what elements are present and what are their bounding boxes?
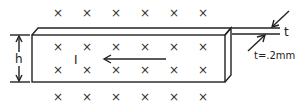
field-cross-icon: ×	[198, 40, 208, 54]
field-cross-icon: ×	[53, 40, 63, 54]
field-cross-icon: ×	[82, 90, 92, 104]
field-cross-icon: ×	[169, 40, 179, 54]
field-cross-icon: ×	[53, 6, 63, 20]
field-cross-icon: ×	[82, 63, 92, 77]
field-cross-icon: ×	[169, 63, 179, 77]
field-cross-icon: ×	[169, 90, 179, 104]
conductor-slab-side	[225, 28, 231, 82]
field-cross-icon: ×	[198, 90, 208, 104]
height-label: h	[15, 52, 23, 66]
field-cross-icon: ×	[82, 40, 92, 54]
field-cross-icon: ×	[111, 6, 121, 20]
field-cross-icon: ×	[140, 63, 150, 77]
field-cross-icon: ×	[111, 63, 121, 77]
field-cross-icon: ×	[198, 6, 208, 20]
t-arrow-top-shaft	[273, 11, 289, 26]
conductor-slab-top	[32, 28, 231, 35]
thickness-value-label: t=.2mm	[254, 50, 295, 61]
current-label: I	[74, 53, 78, 67]
conductor-diagram: ×××××××××××××××××××××××× h I t t=.2mm	[0, 0, 306, 108]
field-cross-icon: ×	[198, 63, 208, 77]
field-cross-icon: ×	[169, 6, 179, 20]
field-cross-icon: ×	[53, 63, 63, 77]
field-cross-icon: ×	[82, 6, 92, 20]
field-cross-icon: ×	[140, 40, 150, 54]
field-cross-icon: ×	[111, 40, 121, 54]
field-cross-icon: ×	[140, 90, 150, 104]
field-cross-icon: ×	[111, 90, 121, 104]
field-cross-icon: ×	[53, 90, 63, 104]
t-arrow-bottom-shaft	[248, 36, 264, 51]
thickness-label: t	[284, 25, 289, 39]
field-cross-icon: ×	[140, 6, 150, 20]
